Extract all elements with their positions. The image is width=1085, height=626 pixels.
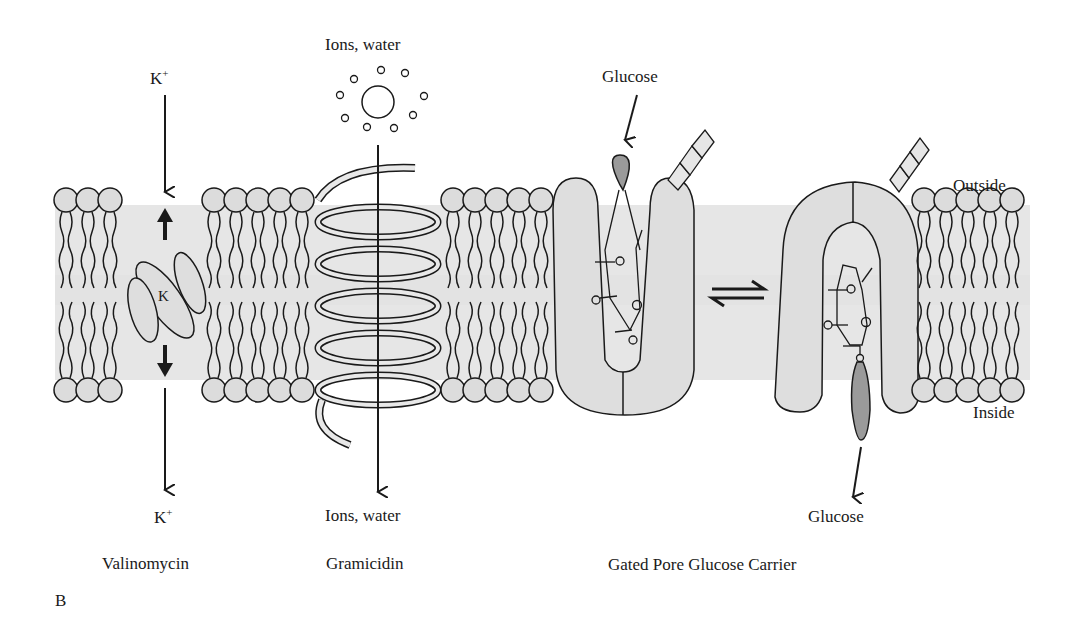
gramicidin-caption: Gramicidin bbox=[326, 555, 403, 572]
glucose-icon bbox=[852, 362, 870, 440]
valinomycin-caption: Valinomycin bbox=[102, 555, 189, 572]
panel-label: B bbox=[55, 592, 66, 609]
valinomycin-complex-label: K bbox=[158, 289, 169, 304]
glucose-out-label: Glucose bbox=[808, 508, 864, 525]
ion-icon bbox=[362, 86, 394, 118]
valinomycin-bottom-ion-label: K+ bbox=[154, 507, 173, 526]
membrane-transport-diagram bbox=[0, 0, 1085, 626]
gramicidin-bottom-label: Ions, water bbox=[325, 507, 401, 524]
valinomycin-top-ion-label: K+ bbox=[150, 68, 169, 87]
outside-label: Outside bbox=[953, 177, 1006, 194]
glucose-in-label: Glucose bbox=[602, 68, 658, 85]
glucose-icon bbox=[613, 155, 630, 190]
glucose-carrier-caption: Gated Pore Glucose Carrier bbox=[608, 556, 796, 573]
gramicidin-top-label: Ions, water bbox=[325, 36, 401, 53]
inside-label: Inside bbox=[973, 404, 1015, 421]
